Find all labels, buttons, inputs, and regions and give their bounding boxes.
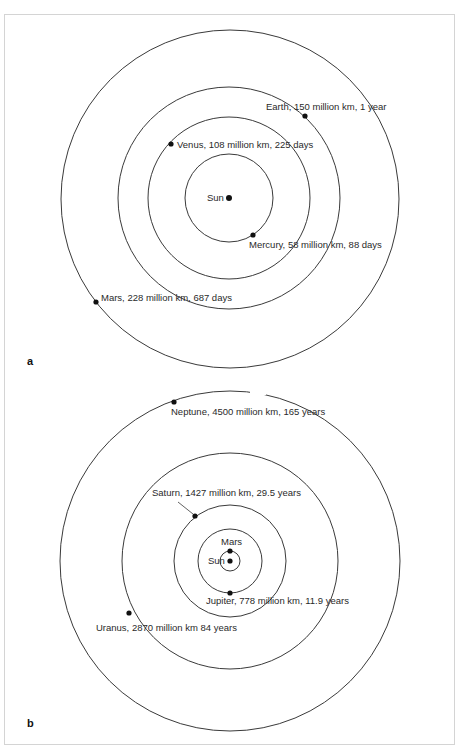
saturn-dot xyxy=(192,513,197,518)
mars-label-b: Mars xyxy=(221,536,242,547)
neptune-orbit-gap xyxy=(250,389,266,395)
venus-label: Venus, 108 million km, 225 days xyxy=(177,139,313,150)
jupiter-label: Jupiter, 778 million km, 11.9 years xyxy=(206,595,349,606)
sun-dot-b xyxy=(227,558,232,563)
saturn-pointer xyxy=(178,502,193,514)
mars-dot xyxy=(93,299,98,304)
mars-dot-b xyxy=(227,548,232,553)
uranus-dot xyxy=(126,610,131,615)
panel-a: Sun Mercury, 58 million km, 88 days Venu… xyxy=(27,30,399,368)
mars-label: Mars, 228 million km, 687 days xyxy=(101,292,232,303)
uranus-label: Uranus, 2870 million km 84 years xyxy=(96,622,237,633)
panel-letter-a: a xyxy=(27,355,34,367)
mercury-label: Mercury, 58 million km, 88 days xyxy=(249,239,382,250)
sun-dot xyxy=(226,195,232,201)
saturn-label: Saturn, 1427 million km, 29.5 years xyxy=(152,487,301,498)
earth-dot xyxy=(302,113,307,118)
sun-label: Sun xyxy=(207,192,224,203)
earth-label: Earth, 150 million km, 1 year xyxy=(266,101,386,112)
neptune-dot xyxy=(171,399,176,404)
neptune-label: Neptune, 4500 million km, 165 years xyxy=(171,406,325,417)
mercury-dot xyxy=(250,232,255,237)
solar-system-diagram: Sun Mercury, 58 million km, 88 days Venu… xyxy=(0,0,462,751)
panel-b: Sun Mars Jupiter, 778 million km, 11.9 y… xyxy=(27,389,400,731)
panel-letter-b: b xyxy=(27,717,34,729)
sun-label-b: Sun xyxy=(208,555,225,566)
venus-dot xyxy=(168,141,173,146)
